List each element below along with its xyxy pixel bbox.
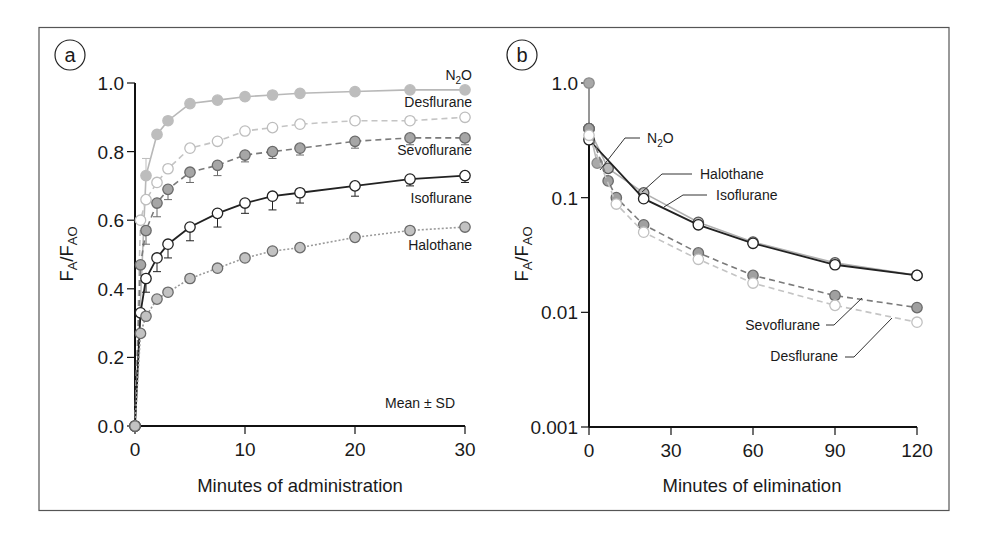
- y-tick-label: 0.6: [98, 210, 124, 231]
- mean-sd-annotation: Mean ± SD: [385, 395, 455, 411]
- y-tick-label: 1.0: [552, 73, 578, 94]
- data-point: [405, 174, 415, 184]
- y-tick-label: 0.1: [552, 188, 578, 209]
- data-point: [405, 225, 415, 235]
- y-tick-label: 0.001: [530, 417, 578, 438]
- panel-b: b 1.00.10.010.0010306090120 N2O Halothan…: [507, 40, 933, 496]
- panel-b-letter: b: [516, 44, 527, 66]
- data-point: [141, 311, 151, 321]
- data-point: [152, 177, 162, 187]
- data-point: [212, 263, 222, 273]
- y-tick-label: 0.0: [98, 416, 124, 437]
- data-point: [152, 129, 162, 139]
- label-desflurane: Desflurane: [404, 94, 472, 110]
- label-halothane: Halothane: [408, 237, 472, 253]
- isoflurane-leader-line: [664, 195, 707, 207]
- sevoflurane-label-b: Sevoflurane: [745, 317, 820, 333]
- data-point: [185, 98, 195, 108]
- data-point: [240, 126, 250, 136]
- data-point: [141, 273, 151, 283]
- series-line: [589, 140, 917, 276]
- data-point: [267, 122, 277, 132]
- halothane-label-b: Halothane: [700, 166, 764, 182]
- data-point: [240, 92, 250, 102]
- series-desflurane: [130, 112, 470, 431]
- panel-b-y-axis-title: FA/FAO: [511, 226, 535, 281]
- y-tick-label: 0.8: [98, 142, 124, 163]
- series-line: [589, 135, 917, 322]
- data-point: [163, 116, 173, 126]
- data-point: [267, 191, 277, 201]
- data-point: [152, 198, 162, 208]
- data-point: [212, 95, 222, 105]
- x-tick-label: 30: [454, 439, 475, 460]
- data-point: [295, 188, 305, 198]
- data-point: [135, 328, 145, 338]
- x-tick-label: 0: [584, 440, 595, 461]
- data-point: [748, 238, 758, 248]
- data-point: [163, 184, 173, 194]
- y-tick-label: 0.2: [98, 347, 124, 368]
- data-point: [135, 215, 145, 225]
- data-point: [240, 198, 250, 208]
- data-point: [267, 146, 277, 156]
- data-point: [185, 167, 195, 177]
- data-point: [584, 78, 594, 88]
- isoflurane-label-b: Isoflurane: [716, 187, 778, 203]
- desflurane-label-b: Desflurane: [770, 348, 838, 364]
- series-line: [135, 117, 465, 426]
- series-line: [135, 90, 465, 426]
- data-point: [212, 208, 222, 218]
- data-point: [350, 86, 360, 96]
- data-point: [830, 300, 840, 310]
- data-point: [141, 194, 151, 204]
- data-point: [638, 193, 648, 203]
- data-point: [141, 225, 151, 235]
- data-point: [748, 278, 758, 288]
- series-desflurane: [584, 130, 922, 327]
- data-point: [830, 290, 840, 300]
- series-line: [135, 138, 465, 426]
- figure-frame: [39, 28, 949, 511]
- data-point: [350, 232, 360, 242]
- data-point: [611, 199, 621, 209]
- series-line: [135, 176, 465, 426]
- data-point: [405, 116, 415, 126]
- series-isoflurane: [130, 170, 470, 431]
- data-point: [267, 90, 277, 100]
- data-point: [350, 116, 360, 126]
- label-isoflurane: Isoflurane: [411, 190, 473, 206]
- svg-text:FA/FAO: FA/FAO: [56, 226, 80, 281]
- data-point: [295, 88, 305, 98]
- panel-a-y-axis-title: FA/FAO: [56, 226, 80, 281]
- x-tick-label: 120: [901, 440, 933, 461]
- data-point: [638, 227, 648, 237]
- data-point: [185, 143, 195, 153]
- panel-a-letter: a: [64, 44, 76, 66]
- x-tick-label: 30: [660, 440, 681, 461]
- n2o-label-b: N2O: [647, 130, 674, 149]
- y-tick-label: 1.0: [98, 73, 124, 94]
- data-point: [912, 317, 922, 327]
- data-point: [912, 302, 922, 312]
- data-point: [240, 253, 250, 263]
- figure: a 0.00.20.40.60.81.00102030 N2ODesfluran…: [0, 0, 981, 545]
- data-point: [163, 164, 173, 174]
- y-tick-label: 0.01: [541, 302, 578, 323]
- data-point: [295, 119, 305, 129]
- data-point: [912, 270, 922, 280]
- data-point: [460, 170, 470, 180]
- data-point: [130, 421, 140, 431]
- panel-a-series: [130, 85, 470, 432]
- x-tick-label: 10: [234, 439, 255, 460]
- data-point: [267, 246, 277, 256]
- label-n2o: N2O: [445, 67, 472, 86]
- data-point: [152, 253, 162, 263]
- data-point: [830, 260, 840, 270]
- panel-a-x-axis-title: Minutes of administration: [197, 475, 403, 496]
- x-tick-label: 0: [130, 439, 141, 460]
- data-point: [135, 260, 145, 270]
- data-point: [212, 160, 222, 170]
- data-point: [185, 222, 195, 232]
- x-tick-label: 20: [344, 439, 365, 460]
